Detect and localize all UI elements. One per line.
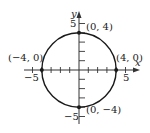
point-right [114,68,118,72]
point-left [40,68,44,72]
y-tick-label-5: 5 [70,18,76,29]
x-tick-label-5: 5 [123,72,129,83]
point-label-top: (0, 4) [86,21,113,32]
point-top [77,31,81,35]
y-axis-arrow-icon [77,11,82,18]
x-axis-arrow-icon [133,68,140,73]
point-label-right: (4, 0) [116,52,143,63]
x-tick-label-neg5: −5 [24,72,39,83]
point-label-bottom: (0, −4) [86,104,121,115]
circle-diagram: y x 5 −5 −5 5 (0, 4) (4, 0) (0, −4) (−4,… [0,0,150,133]
point-label-left: (−4, 0) [8,52,43,63]
point-bottom [77,105,81,109]
y-tick-label-neg5: −5 [64,111,79,122]
